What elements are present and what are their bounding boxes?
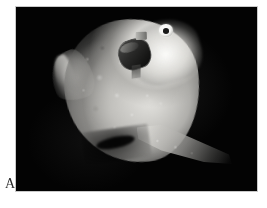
- figure-panel: A: [0, 0, 267, 208]
- photo-canvas: [16, 7, 257, 191]
- tag-antenna: [136, 32, 147, 40]
- photo-frame: [15, 6, 258, 192]
- fish-eye: [159, 24, 172, 36]
- panel-label: A: [5, 177, 15, 191]
- tag-attachment-tether: [132, 65, 141, 79]
- fish-pupil: [163, 28, 169, 34]
- sunfish: [16, 7, 257, 191]
